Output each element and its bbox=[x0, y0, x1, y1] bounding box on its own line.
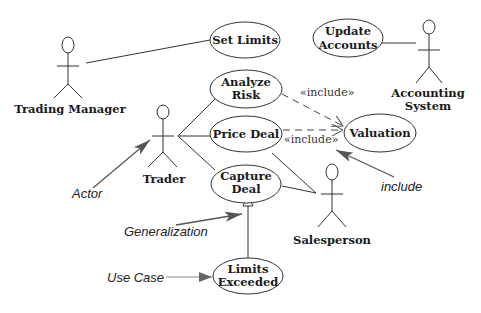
annotation-include: include bbox=[336, 150, 422, 194]
assoc-capture-deal-salesperson bbox=[282, 186, 316, 193]
svg-text:Capture: Capture bbox=[220, 169, 272, 183]
use-case-diagram: Set Limits Update Accounts Analyze Risk … bbox=[0, 0, 481, 313]
svg-text:Exceeded: Exceeded bbox=[218, 275, 279, 289]
svg-text:Trading Manager: Trading Manager bbox=[14, 102, 126, 116]
use-case-set-limits[interactable]: Set Limits bbox=[210, 22, 280, 58]
use-case-update-accounts[interactable]: Update Accounts bbox=[313, 19, 383, 57]
svg-text:Actor: Actor bbox=[71, 186, 103, 201]
svg-text:include: include bbox=[381, 179, 422, 194]
actor-salesperson[interactable]: Salesperson bbox=[293, 164, 371, 247]
stick-figure-icon bbox=[148, 105, 177, 167]
svg-text:Generalization: Generalization bbox=[124, 224, 208, 239]
svg-text:System: System bbox=[405, 99, 451, 113]
assoc-trading-manager-set-limits bbox=[86, 40, 210, 63]
actor-accounting-system[interactable]: Accounting System bbox=[390, 20, 464, 113]
annotation-use-case: Use Case bbox=[107, 270, 212, 285]
use-case-valuation[interactable]: Valuation bbox=[344, 114, 416, 152]
svg-text:Trader: Trader bbox=[143, 172, 187, 186]
svg-text:Salesperson: Salesperson bbox=[293, 233, 371, 247]
annotation-actor: Actor bbox=[71, 140, 150, 201]
svg-text:Risk: Risk bbox=[232, 88, 261, 102]
assoc-trader-capture-deal bbox=[178, 136, 215, 170]
arrow-icon bbox=[336, 150, 394, 177]
use-case-price-deal[interactable]: Price Deal bbox=[210, 116, 282, 152]
svg-text:Use Case: Use Case bbox=[107, 270, 164, 285]
stick-figure-icon bbox=[318, 164, 346, 227]
use-case-analyze-risk[interactable]: Analyze Risk bbox=[210, 70, 282, 108]
include-stereotype-bottom: «include» bbox=[284, 133, 338, 146]
svg-text:Analyze: Analyze bbox=[220, 75, 271, 89]
generalization-edge bbox=[243, 195, 253, 258]
svg-text:Set Limits: Set Limits bbox=[212, 33, 278, 47]
use-case-limits-exceeded[interactable]: Limits Exceeded bbox=[213, 258, 283, 294]
actor-trading-manager[interactable]: Trading Manager bbox=[14, 37, 126, 116]
use-case-capture-deal[interactable]: Capture Deal bbox=[211, 165, 281, 203]
svg-text:Update: Update bbox=[325, 24, 371, 38]
svg-text:Accounting: Accounting bbox=[390, 86, 464, 100]
svg-text:Accounts: Accounts bbox=[317, 38, 377, 52]
arrow-icon bbox=[93, 140, 150, 188]
annotation-generalization: Generalization bbox=[124, 214, 242, 239]
include-stereotype-top: «include» bbox=[300, 86, 354, 99]
svg-text:Limits: Limits bbox=[228, 262, 269, 276]
stick-figure-icon bbox=[416, 20, 442, 83]
svg-text:Valuation: Valuation bbox=[348, 126, 411, 140]
include-dependencies bbox=[282, 94, 343, 130]
svg-text:Price Deal: Price Deal bbox=[213, 127, 280, 141]
actor-trader[interactable]: Trader bbox=[143, 105, 187, 186]
svg-text:Deal: Deal bbox=[231, 182, 261, 196]
stick-figure-icon bbox=[54, 37, 82, 98]
